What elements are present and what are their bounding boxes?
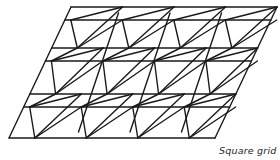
frame-member: [174, 20, 181, 48]
frame-member: [103, 61, 107, 94]
frame-member: [86, 107, 132, 138]
frame-member: [206, 61, 210, 94]
frame-member: [215, 7, 277, 138]
frame-member: [56, 61, 103, 94]
frame-member: [180, 20, 225, 48]
frame-member: [138, 107, 184, 138]
frame-member: [30, 94, 56, 107]
frame-member: [71, 20, 78, 48]
frame-member: [225, 20, 232, 48]
frame-member: [35, 107, 81, 138]
frame-member: [51, 61, 55, 94]
frame-members: [9, 7, 277, 138]
frame-member: [51, 48, 103, 61]
frame-member: [9, 7, 71, 138]
space-frame-diagram: [0, 0, 280, 160]
frame-member: [129, 20, 174, 48]
frame-member: [51, 48, 77, 61]
frame-member: [159, 61, 206, 94]
frame-member: [154, 61, 158, 94]
figure-caption: Square grid: [219, 145, 276, 156]
frame-member: [189, 107, 235, 138]
frame-member: [184, 94, 210, 107]
frame-member: [122, 20, 129, 48]
frame-member: [81, 94, 107, 107]
frame-member: [133, 94, 159, 107]
frame-member: [232, 20, 277, 48]
frame-member: [107, 61, 154, 94]
frame-member: [210, 61, 257, 94]
frame-member: [154, 48, 206, 61]
frame-member: [30, 107, 35, 138]
frame-member: [206, 48, 258, 61]
frame-member: [103, 48, 155, 61]
frame-member: [77, 20, 122, 48]
